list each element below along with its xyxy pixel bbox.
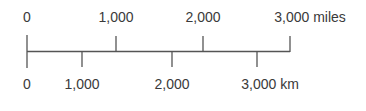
miles-label-3000: 3,000 miles [274,9,346,25]
km-label-1000: 1,000 [64,76,99,92]
miles-label-0: 0 [23,9,31,25]
km-label-2000: 2,000 [154,76,189,92]
km-label-0: 0 [23,76,31,92]
map-scale-bar: 0 1,000 2,000 3,000 miles 0 1,000 2,000 … [0,0,366,111]
miles-label-2000: 2,000 [185,9,220,25]
miles-label-1000: 1,000 [98,9,133,25]
km-label-3000: 3,000 km [241,76,299,92]
